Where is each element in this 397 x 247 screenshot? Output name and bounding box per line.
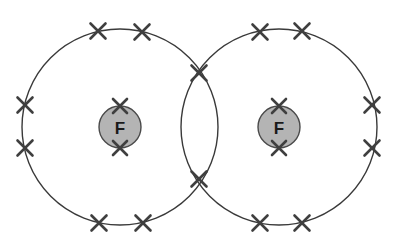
diagram-canvas: F F [0,0,397,247]
electron-cross-icon [92,216,107,231]
atom-nuclei: F F [99,106,300,148]
electron-layer [18,24,380,231]
dot-and-cross-diagram: F F [0,0,397,247]
electron-cross-icon [135,25,150,40]
electron-shells [22,29,377,225]
electron-cross-icon [253,216,268,231]
electron-cross-icon [365,141,380,156]
electron-cross-icon [365,98,380,113]
electron-cross-icon [192,66,207,81]
electron-cross-icon [18,98,33,113]
atom-circle-left [99,106,141,148]
atom-circle-right [258,106,300,148]
